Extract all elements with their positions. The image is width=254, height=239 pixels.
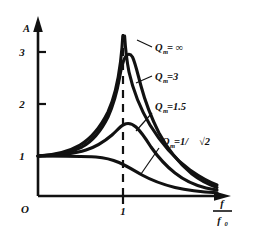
y-tick-label-3: 3 <box>18 46 25 58</box>
y-tick-label-1: 1 <box>19 150 25 162</box>
leader-line-qm-1-over-sqrt2 <box>141 148 159 174</box>
annotation-qm-1point5: Q m =1.5 <box>155 101 186 114</box>
chart-svg: A 3 2 1 1 O f f 0 Q m = ∞ Q m =3 Q m <box>0 0 254 239</box>
annotation-qm-infinity-q: Q <box>155 42 163 53</box>
origin-label: O <box>21 203 29 215</box>
y-tick-label-2: 2 <box>18 98 25 110</box>
leader-line-qm-infinity <box>137 40 152 47</box>
y-axis-arrowhead <box>33 16 43 32</box>
annotation-qm-1point5-q: Q <box>155 101 163 112</box>
annotation-qm-1-over-sqrt2-value: =1/ <box>174 136 189 147</box>
x-axis-label-denominator: f <box>217 215 222 226</box>
annotation-qm-3-value: =3 <box>167 71 178 82</box>
annotation-qm-infinity: Q m = ∞ <box>155 42 183 55</box>
annotation-qm-1-over-sqrt2-radical: √2 <box>199 136 211 147</box>
axes <box>33 16 231 201</box>
x-tick-label-1: 1 <box>120 205 126 217</box>
y-axis-label: A <box>22 23 30 34</box>
annotation-qm-infinity-value: = ∞ <box>167 42 183 53</box>
annotation-qm-3-q: Q <box>155 71 163 82</box>
curve-qm-infinity <box>38 36 217 185</box>
annotation-qm-3: Q m =3 <box>155 71 178 84</box>
resonance-amplitude-figure: A 3 2 1 1 O f f 0 Q m = ∞ Q m =3 Q m <box>0 0 254 239</box>
annotation-qm-1-over-sqrt2-q: Q <box>162 136 170 147</box>
annotation-qm-1point5-value: =1.5 <box>167 101 186 112</box>
x-axis-label: f f 0 <box>213 198 232 227</box>
x-axis-label-denominator-subscript: 0 <box>224 220 228 227</box>
tick-marks <box>38 52 123 204</box>
annotation-qm-1-over-sqrt2: Q m =1/ √2 <box>162 136 211 149</box>
x-axis-label-numerator: f <box>220 198 225 209</box>
